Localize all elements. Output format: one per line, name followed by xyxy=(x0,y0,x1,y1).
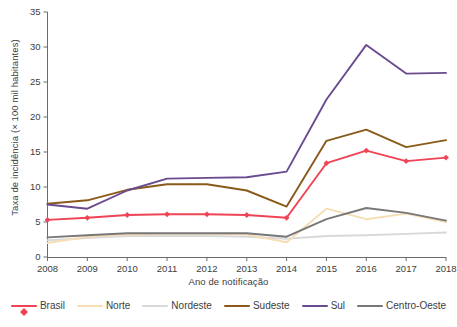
legend-item-norte[interactable]: Norte xyxy=(77,300,130,311)
data-point-marker xyxy=(84,215,90,221)
data-point-marker xyxy=(403,158,409,164)
legend-label: Sudeste xyxy=(253,300,290,311)
x-tick-label: 2015 xyxy=(316,263,337,274)
x-tick-label: 2014 xyxy=(276,263,297,274)
y-tick-label: 30 xyxy=(30,41,41,52)
legend-item-sul[interactable]: Sul xyxy=(302,300,345,311)
y-tick-label: 35 xyxy=(30,6,41,17)
data-point-marker xyxy=(124,212,130,218)
x-tick-label: 2017 xyxy=(396,263,417,274)
legend-label: Brasil xyxy=(40,300,65,311)
x-tick-label: 2008 xyxy=(37,263,58,274)
x-tick-label: 2011 xyxy=(157,263,177,274)
x-tick-label: 2013 xyxy=(236,263,257,274)
x-tick-label: 2010 xyxy=(117,263,138,274)
legend-item-brasil[interactable]: Brasil xyxy=(11,300,65,311)
plot-area: 05101520253035 2008200920102011201220132… xyxy=(0,0,457,290)
y-tick-label: 5 xyxy=(35,216,40,227)
legend-swatch-sudeste xyxy=(224,301,250,311)
data-point-marker xyxy=(164,211,170,217)
series-line xyxy=(48,130,447,207)
x-tick-label: 2016 xyxy=(356,263,377,274)
series-sul xyxy=(48,45,447,209)
legend-item-sudeste[interactable]: Sudeste xyxy=(224,300,290,311)
chart-legend: BrasilNorteNordesteSudesteSulCentro-Oest… xyxy=(0,300,457,311)
y-tick-label: 0 xyxy=(35,251,40,262)
legend-swatch-centro-oeste xyxy=(357,301,383,311)
legend-swatch-sul xyxy=(302,301,328,311)
x-axis-title: Ano de notificação xyxy=(0,276,457,287)
diamond-marker-icon xyxy=(20,302,28,310)
legend-label: Nordeste xyxy=(171,300,212,311)
legend-label: Centro-Oeste xyxy=(386,300,446,311)
y-tick-label: 10 xyxy=(30,181,41,192)
legend-item-nordeste[interactable]: Nordeste xyxy=(142,300,212,311)
data-point-marker xyxy=(244,212,250,218)
series-line xyxy=(48,45,447,209)
x-tick-label: 2012 xyxy=(196,263,217,274)
series-lines xyxy=(45,45,449,243)
y-axis-ticks: 05101520253035 xyxy=(30,6,48,262)
data-point-marker xyxy=(363,148,369,154)
x-tick-label: 2009 xyxy=(77,263,98,274)
legend-label: Norte xyxy=(106,300,130,311)
x-axis-ticks: 2008200920102011201220132014201520162017… xyxy=(37,257,457,274)
y-tick-label: 25 xyxy=(30,76,41,87)
legend-swatch-brasil xyxy=(11,301,37,311)
y-tick-label: 20 xyxy=(30,111,41,122)
legend-label: Sul xyxy=(331,300,345,311)
legend-swatch-nordeste xyxy=(142,301,168,311)
data-point-marker xyxy=(443,155,449,161)
legend-item-centro-oeste[interactable]: Centro-Oeste xyxy=(357,300,446,311)
series-sudeste xyxy=(48,130,447,207)
data-point-marker xyxy=(204,211,210,217)
y-tick-label: 15 xyxy=(30,146,41,157)
incidence-line-chart: Taxa de incidência (× 100 mil habitantes… xyxy=(0,0,457,327)
x-tick-label: 2018 xyxy=(435,263,456,274)
legend-swatch-norte xyxy=(77,301,103,311)
